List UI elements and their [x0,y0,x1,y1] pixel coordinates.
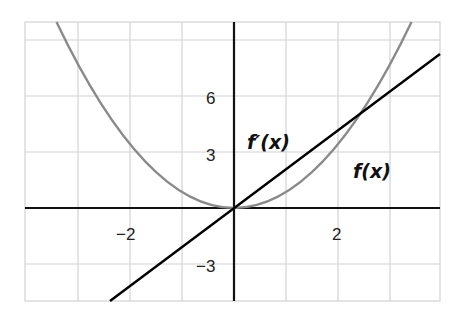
y-tick-3: 3 [206,146,215,165]
y-tick-6: 6 [206,89,215,108]
f-label: f(x) [353,160,391,182]
function-graph: −2 2 6 3 −3 f′(x) f(x) [0,0,465,314]
x-tick-neg2: −2 [116,225,135,244]
y-tick-neg3: −3 [196,257,215,276]
x-tick-2: 2 [332,225,341,244]
fprime-label: f′(x) [247,131,290,153]
